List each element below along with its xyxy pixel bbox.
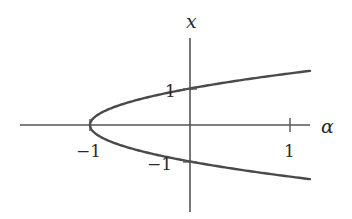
x-axis-label: α bbox=[321, 115, 334, 137]
tick-label-alpha-neg1: −1 bbox=[76, 141, 101, 161]
upper-branch-curve bbox=[90, 71, 310, 125]
tick-label-x-1: 1 bbox=[165, 81, 176, 101]
y-axis-label: x bbox=[186, 10, 197, 32]
tick-label-alpha-1: 1 bbox=[284, 141, 295, 161]
tick-label-x-neg1: −1 bbox=[147, 154, 172, 174]
bifurcation-plot: x α −1 1 1 −1 bbox=[0, 0, 352, 219]
lower-branch-curve bbox=[90, 125, 310, 179]
